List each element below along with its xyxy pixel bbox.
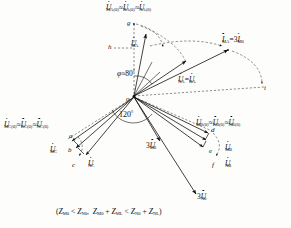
- label-u-nb: UNB: [225, 160, 231, 168]
- label-u-nc: UNC: [88, 160, 94, 168]
- bracket-ef: [203, 141, 206, 147]
- label-u-mc: UMC: [50, 146, 57, 154]
- label-prefault-phase-a: UMA(0)≈UKA(0)≈UNA(0): [106, 4, 151, 12]
- point-label-c: c: [72, 161, 75, 169]
- diagram-canvas: [0, 0, 291, 228]
- arc-d-to-f: [213, 133, 219, 156]
- phasor-to-b: [76, 97, 134, 148]
- origin-point: [133, 95, 136, 98]
- figure-caption: (ZM0 < ZN0, ZM0 + ZML < ZN0 + ZNL): [56, 207, 162, 216]
- point-label-i: i: [264, 84, 266, 92]
- point-label-f: f: [212, 161, 214, 169]
- arc-g-to-ma: [136, 24, 163, 47]
- label-prefault-phase-c: UMC(0)≈UKC(0)≈UNC(0): [4, 121, 48, 129]
- point-label-b: b: [68, 146, 72, 154]
- arc-a-to-c: [78, 137, 82, 156]
- point-label-a: a: [69, 132, 73, 140]
- point-label-h: h: [108, 43, 112, 51]
- arc-outer-g: [141, 26, 186, 62]
- point-label-d: d: [211, 126, 215, 134]
- segment-brackets: [74, 133, 209, 154]
- phasor-3u-n0: [134, 97, 196, 194]
- point-g-dot: [133, 23, 135, 25]
- axis-o-to-i: [134, 87, 264, 96]
- label-sector-angle: 120°: [119, 111, 133, 119]
- label-prefault-phase-b: UMB(0)≈UKB(0)≈UNB(0): [196, 119, 240, 127]
- phasor-inner-ray-1: [134, 62, 152, 96]
- point-label-e: e: [209, 147, 212, 155]
- origin-label: o: [126, 95, 130, 103]
- point-i-marker: [227, 49, 229, 51]
- label-three-u-m0: 3UM0: [146, 142, 156, 150]
- label-u-mb: UMB: [225, 144, 232, 152]
- point-label-g: g: [127, 19, 131, 27]
- label-u-na-equals-u-ka: UNA=UKA: [178, 76, 196, 84]
- arc-h-to-ima: [150, 41, 222, 46]
- phasor-diagram-figure: UMA(0)≈UKA(0)≈UNA(0) IMA=3IM0 UMA UNA=UK…: [0, 0, 291, 228]
- bracket-de: [205, 133, 209, 140]
- label-u-ma: UMA: [131, 40, 138, 48]
- arc-ima-to-i: [232, 51, 262, 84]
- label-current-ma: IMA=3IM0: [222, 36, 244, 44]
- bracket-ab: [74, 141, 80, 147]
- phasor-to-f: [134, 97, 203, 147]
- phasors: [72, 34, 228, 194]
- label-three-u-n0: 3UN0: [197, 193, 206, 201]
- label-phi-angle: φ≈80°: [117, 70, 135, 78]
